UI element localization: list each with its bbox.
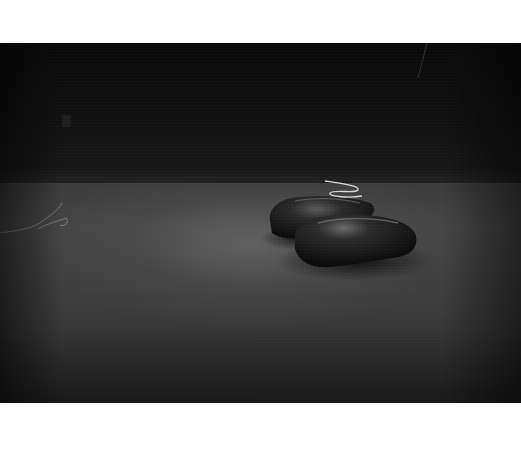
photograph: Pair of boxing gloves lying on a carpete… [0,43,521,403]
floor-string [0,203,67,233]
glove-lace [325,181,362,197]
wall-crack [418,43,427,78]
wall-outlet-icon [62,115,71,127]
scene-objects [0,43,521,403]
